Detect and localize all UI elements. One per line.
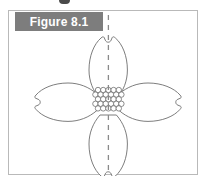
figure-label-text: Figure 8.1 [30,16,89,28]
figure-page: Figure 8.1 [0,0,208,184]
right-petal-shape [119,83,181,121]
page-bleed-fragment [59,0,70,4]
left-petal-shape [35,83,97,121]
flower-illustration [9,11,199,176]
figure-box: Figure 8.1 [8,10,198,175]
figure-label-bar: Figure 8.1 [15,12,103,31]
